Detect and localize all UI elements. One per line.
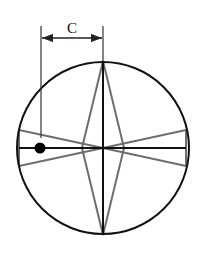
bowtie-upper-left — [19, 130, 103, 148]
bowtie-lower-left — [19, 148, 103, 166]
dimension-label: C — [67, 20, 77, 36]
bowtie-lower-right — [103, 148, 186, 166]
diagram-canvas: C — [0, 0, 198, 254]
bowtie-upper-right — [103, 130, 186, 148]
marker-dot — [35, 143, 46, 154]
